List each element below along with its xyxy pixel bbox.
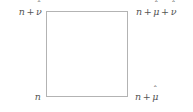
plus-operator-top-left: + bbox=[25, 6, 36, 17]
hat-accent-icon: ˆ bbox=[171, 1, 176, 10]
vertex-label-top-left: n+ˆν bbox=[19, 7, 42, 17]
plus-operator-top-right-2: + bbox=[160, 6, 171, 17]
mu-hat-symbol-top-right: ˆμ bbox=[153, 7, 159, 17]
nu-hat-symbol-top-left: ˆν bbox=[36, 7, 42, 17]
hat-accent-icon: ˆ bbox=[154, 1, 159, 10]
vertex-label-bottom-left: n bbox=[35, 92, 41, 102]
plaquette-square bbox=[46, 11, 128, 97]
vertex-base-symbol-bottom-left: n bbox=[35, 91, 41, 102]
mu-hat-symbol-bottom-right: ˆμ bbox=[152, 92, 158, 102]
vertex-label-bottom-right: n+ˆμ bbox=[135, 92, 159, 102]
nu-hat-symbol-top-right: ˆν bbox=[171, 7, 177, 17]
hat-accent-icon: ˆ bbox=[153, 86, 158, 95]
lattice-plaquette-figure: n+ˆν n+ˆμ+ˆν n n+ˆμ bbox=[0, 0, 193, 112]
plus-operator-top-right-1: + bbox=[142, 6, 153, 17]
vertex-label-top-right: n+ˆμ+ˆν bbox=[136, 7, 177, 17]
plus-operator-bottom-right: + bbox=[141, 91, 152, 102]
hat-accent-icon: ˆ bbox=[37, 1, 42, 10]
